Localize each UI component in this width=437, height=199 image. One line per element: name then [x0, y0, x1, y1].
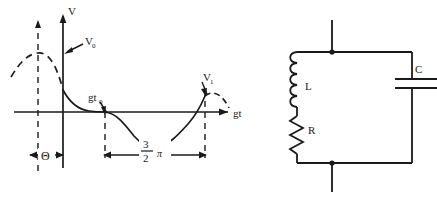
annotation-v1: V 1: [203, 71, 214, 86]
curve-solid-main: [63, 90, 205, 147]
inductor-icon: [290, 52, 297, 107]
y-axis-label: V: [68, 5, 76, 17]
v1-pointer: [201, 82, 207, 97]
x-axis-label: gt: [233, 107, 242, 119]
figure-root: V gt V 0 gt 0 V 1: [0, 0, 437, 199]
v0-pointer: [64, 44, 83, 54]
dimension-pi-numerator: 3: [143, 138, 149, 150]
dimension-theta-label: Θ: [41, 149, 50, 163]
waveform-graph-panel: V gt V 0 gt 0 V 1: [11, 5, 242, 176]
curve-dashed-trailing: [205, 93, 229, 108]
dimension-pi-denominator: 2: [143, 152, 149, 164]
inductor-label: L: [305, 80, 312, 92]
capacitor-label: C: [415, 63, 422, 75]
figure-svg: V gt V 0 gt 0 V 1: [0, 0, 437, 199]
dimension-theta: Θ: [29, 148, 64, 163]
resistor-label: R: [308, 124, 316, 136]
annotation-gt0-sub: 0: [99, 98, 103, 106]
resistor-icon: [290, 116, 303, 154]
annotation-gt0-base: gt: [88, 91, 97, 103]
annotation-v0: V 0: [85, 35, 96, 50]
curve-dashed-leading: [11, 53, 63, 90]
annotation-v0-sub: 0: [92, 42, 96, 50]
dimension-three-halves-pi: 3 2 π: [103, 134, 207, 164]
annotation-gt0: gt 0: [88, 91, 103, 106]
annotation-v1-sub: 1: [210, 78, 214, 86]
lc-circuit-panel: L R C: [290, 20, 437, 192]
